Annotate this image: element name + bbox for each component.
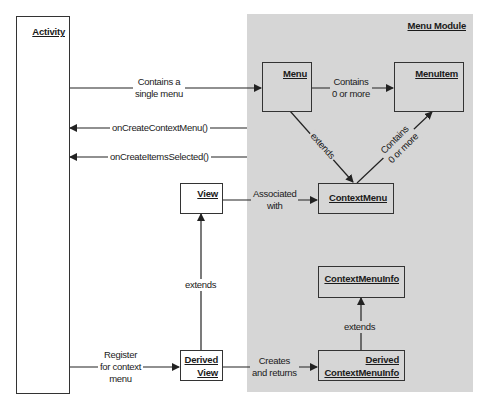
- label-associated-with: Associated with: [251, 188, 298, 212]
- label-line: Creates: [252, 355, 297, 367]
- label-line: and returns: [252, 367, 297, 379]
- menuitem-box[interactable]: MenuItem: [394, 62, 464, 112]
- contextmenuinfo-title: ContextMenuInfo: [324, 273, 399, 285]
- view-title: View: [197, 188, 218, 200]
- label-contains-single-menu: Contains a single menu: [133, 76, 185, 100]
- activity-box[interactable]: Activity: [16, 16, 70, 394]
- derived-view-box[interactable]: Derived View: [180, 350, 223, 381]
- menu-title: Menu: [283, 68, 307, 80]
- derived-cmi-title-1: Derived: [366, 354, 399, 366]
- contextmenu-title: ContextMenu: [329, 192, 387, 204]
- label-register-context-menu: Register for context menu: [98, 349, 143, 385]
- label-on-create-items-selected: onCreateItemsSelected(): [108, 151, 211, 163]
- label-derived-view-extends: extends: [183, 279, 218, 291]
- contextmenu-box[interactable]: ContextMenu: [318, 183, 394, 214]
- activity-title: Activity: [32, 26, 65, 38]
- label-line: single menu: [135, 88, 183, 100]
- derived-view-title-2: View: [197, 367, 218, 379]
- label-line: Contains: [332, 76, 370, 88]
- label-line: menu: [100, 373, 141, 385]
- view-box[interactable]: View: [180, 183, 223, 214]
- label-cmi-extends: extends: [342, 321, 377, 333]
- derived-view-title-1: Derived: [185, 354, 218, 366]
- label-line: with: [253, 200, 296, 212]
- label-line: Contains a: [135, 76, 183, 88]
- label-creates-and-returns: Creates and returns: [250, 355, 299, 379]
- label-on-create-context-menu: onCreateContextMenu(): [110, 122, 210, 134]
- label-line: 0 or more: [332, 88, 370, 100]
- contextmenuinfo-box[interactable]: ContextMenuInfo: [318, 266, 405, 298]
- label-line: for context: [100, 361, 141, 373]
- derived-cmi-title-2: ContextMenuInfo: [324, 367, 399, 379]
- menuitem-title: MenuItem: [415, 68, 458, 80]
- label-line: Associated: [253, 188, 296, 200]
- label-line: Register: [100, 349, 141, 361]
- derived-contextmenuinfo-box[interactable]: Derived ContextMenuInfo: [318, 350, 405, 381]
- menu-box[interactable]: Menu: [262, 62, 312, 112]
- label-menu-contains-items: Contains 0 or more: [330, 76, 372, 100]
